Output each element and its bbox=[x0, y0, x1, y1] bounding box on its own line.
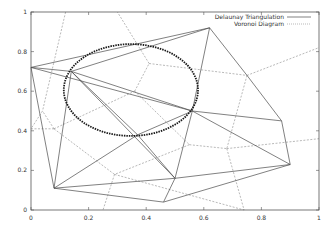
voronoi-edge bbox=[43, 111, 55, 129]
x-tick-label: 0.4 bbox=[141, 214, 151, 221]
delaunay-edges bbox=[31, 28, 290, 202]
voronoi-edges bbox=[31, 12, 319, 210]
x-tick-label: 0.8 bbox=[257, 214, 267, 221]
delaunay-edge bbox=[31, 67, 71, 71]
circumcircle-ellipse bbox=[64, 44, 198, 136]
delaunay-edge bbox=[31, 67, 54, 188]
delaunay-edge bbox=[138, 111, 193, 135]
voronoi-edge bbox=[43, 12, 66, 111]
voronoi-edge bbox=[54, 129, 115, 175]
delaunay-edge bbox=[71, 71, 137, 134]
voronoi-edge bbox=[227, 139, 319, 149]
x-axis: 00.20.40.60.81 bbox=[29, 12, 321, 221]
circumcircle bbox=[64, 44, 198, 136]
delaunay-edge bbox=[54, 71, 71, 188]
y-tick-label: 1 bbox=[23, 8, 27, 15]
voronoi-edge bbox=[247, 48, 319, 76]
voronoi-edge bbox=[103, 174, 115, 210]
delaunay-edge bbox=[54, 135, 138, 188]
delaunay-edge bbox=[164, 165, 291, 203]
y-tick-label: 0.2 bbox=[17, 166, 27, 173]
voronoi-edge bbox=[135, 91, 190, 145]
y-tick-label: 0 bbox=[23, 206, 27, 213]
voronoi-edge bbox=[115, 174, 245, 210]
x-tick-label: 0.2 bbox=[84, 214, 94, 221]
delaunay-edge bbox=[54, 178, 175, 188]
voronoi-edge bbox=[117, 12, 149, 64]
delaunay-edge bbox=[138, 135, 175, 179]
plot-frame bbox=[31, 12, 319, 210]
voronoi-edge bbox=[149, 64, 247, 76]
delaunay-edge bbox=[192, 28, 209, 111]
y-tick-label: 0.8 bbox=[17, 48, 27, 55]
voronoi-edge bbox=[135, 64, 149, 92]
y-tick-label: 0.4 bbox=[17, 127, 27, 134]
x-tick-label: 0.6 bbox=[199, 214, 209, 221]
legend-label-voronoi: Voronoi Diagram bbox=[234, 20, 284, 28]
delaunay-edge bbox=[54, 188, 164, 202]
delaunay-edge bbox=[192, 111, 281, 121]
delaunay-edge bbox=[175, 165, 290, 179]
legend: Delaunay Triangulation Voronoi Diagram bbox=[215, 13, 311, 28]
delaunay-edge bbox=[31, 67, 192, 111]
delaunay-voronoi-chart: 00.20.40.60.81 00.20.40.60.81 Delaunay T… bbox=[0, 0, 336, 230]
voronoi-edge bbox=[115, 145, 190, 175]
x-tick-label: 1 bbox=[317, 214, 321, 221]
delaunay-edge bbox=[247, 75, 282, 121]
voronoi-edge bbox=[54, 91, 135, 129]
delaunay-edge bbox=[192, 111, 290, 165]
voronoi-edge bbox=[227, 75, 247, 148]
y-tick-label: 0.6 bbox=[17, 87, 27, 94]
delaunay-edge bbox=[71, 28, 209, 72]
voronoi-edge bbox=[189, 145, 226, 149]
x-tick-label: 0 bbox=[29, 214, 33, 221]
delaunay-edge bbox=[210, 28, 247, 76]
delaunay-edge bbox=[71, 71, 192, 111]
delaunay-edge bbox=[164, 178, 176, 202]
